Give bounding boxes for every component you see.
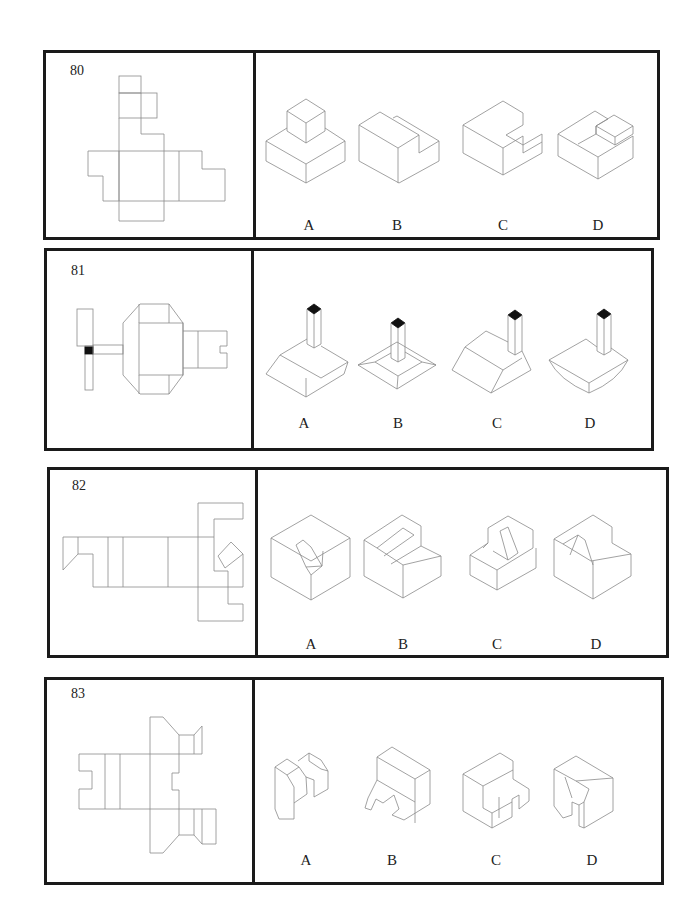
option-d-label[interactable]: D (593, 217, 604, 234)
option-a-label[interactable]: A (301, 852, 312, 869)
option-d-label[interactable]: D (587, 852, 598, 869)
option-a-label[interactable]: A (299, 415, 310, 432)
option-d-figure (554, 515, 631, 599)
problem-82: 82 (47, 467, 669, 658)
option-d-label[interactable]: D (585, 415, 596, 432)
option-b-figure (359, 112, 439, 183)
option-c-label[interactable]: C (492, 636, 502, 653)
option-b-label[interactable]: B (387, 852, 397, 869)
option-b-figure (358, 318, 436, 389)
option-c-figure (452, 310, 531, 393)
option-b-figure (364, 515, 441, 598)
option-b-label[interactable]: B (392, 217, 402, 234)
option-c-label[interactable]: C (498, 217, 508, 234)
problem-83: 83 (44, 677, 664, 885)
option-c-label[interactable]: C (492, 415, 502, 432)
option-d-figure (558, 111, 633, 179)
option-c-figure (463, 753, 529, 828)
option-c-label[interactable]: C (491, 852, 501, 869)
option-a-label[interactable]: A (306, 636, 317, 653)
option-d-label[interactable]: D (591, 636, 602, 653)
option-b-label[interactable]: B (393, 415, 403, 432)
options-diagram (46, 53, 663, 243)
option-c-figure (463, 101, 542, 175)
option-a-figure (275, 753, 328, 819)
option-a-figure (266, 99, 345, 183)
option-d-figure (549, 309, 628, 393)
option-b-figure (365, 747, 430, 823)
problem-80: 80 (43, 50, 660, 240)
options-diagram (47, 680, 667, 888)
option-a-label[interactable]: A (304, 217, 315, 234)
options-diagram (47, 251, 657, 454)
option-b-label[interactable]: B (398, 636, 408, 653)
option-c-figure (470, 516, 536, 590)
option-a-figure (266, 304, 348, 397)
options-diagram (50, 470, 672, 661)
problem-81: 81 (44, 248, 654, 451)
option-d-figure (554, 756, 613, 828)
option-a-figure (271, 515, 350, 600)
